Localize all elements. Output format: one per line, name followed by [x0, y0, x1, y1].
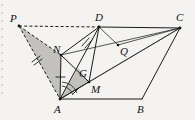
vertex-label-Q: Q: [120, 45, 128, 57]
vertex-label-C: C: [176, 11, 184, 23]
vertex-label-A: A: [53, 103, 61, 115]
vertex-label-G: G: [79, 67, 87, 79]
vertex-label-D: D: [94, 11, 103, 23]
vertex-dot-M: [88, 81, 91, 84]
vertex-dot-Q: [117, 44, 120, 47]
edge-P-D: [19, 26, 99, 27]
geometry-figure: P D C N Q G M A B: [0, 0, 195, 120]
edge-D-Q: [99, 27, 118, 45]
vertex-dot-P: [18, 25, 21, 28]
vertex-dot-A: [59, 98, 62, 101]
edge-C-B: [142, 28, 180, 99]
edge-D-C: [99, 27, 180, 28]
geometry-canvas: P D C N Q G M A B: [0, 0, 195, 120]
edge-M-C: [89, 28, 180, 82]
vertex-label-N: N: [52, 43, 61, 55]
vertex-dot-D: [98, 26, 101, 29]
vertex-label-B: B: [137, 103, 144, 115]
vertex-label-M: M: [90, 83, 101, 95]
left-edge-speckle: [0, 0, 3, 120]
vertex-label-P: P: [9, 12, 17, 24]
vertex-dot-C: [179, 27, 182, 30]
edge-Q-C: [118, 28, 180, 45]
